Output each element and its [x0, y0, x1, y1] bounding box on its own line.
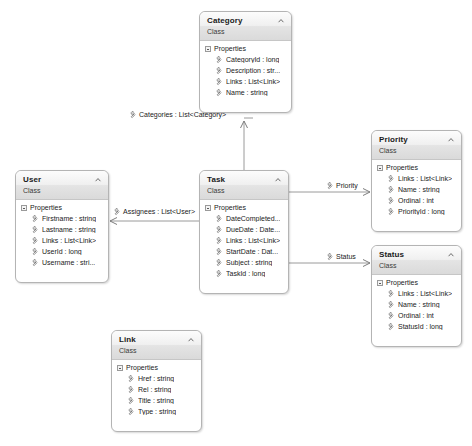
property-wrench-icon [112, 208, 120, 216]
class-header-link[interactable]: LinkClass [112, 331, 201, 360]
property-wrench-icon [30, 248, 38, 256]
compartment-label: Properties [30, 204, 62, 211]
class-name-label: Category [207, 16, 285, 26]
properties-compartment-header[interactable]: Properties [112, 363, 201, 373]
property-row[interactable]: Ordinal : int [372, 195, 461, 206]
class-body-user: PropertiesFirstname : stringLastname : s… [16, 200, 108, 272]
property-row[interactable]: Username : stri... [16, 257, 108, 268]
chevron-up-icon[interactable] [277, 17, 285, 25]
class-stereotype-label: Class [23, 186, 102, 195]
property-label: Lastname : string [42, 226, 96, 233]
class-header-priority[interactable]: PriorityClass [372, 131, 461, 160]
property-wrench-icon [214, 248, 222, 256]
compartment-label: Properties [214, 45, 246, 52]
class-header-status[interactable]: StatusClass [372, 246, 461, 275]
property-row[interactable]: Href : string [112, 373, 201, 384]
properties-compartment-header[interactable]: Properties [200, 203, 288, 213]
properties-compartment-header[interactable]: Properties [200, 44, 291, 54]
property-row[interactable]: TaskId : long [200, 268, 288, 279]
property-label: Links : List<Link> [226, 237, 280, 244]
class-shape-link[interactable]: LinkClassPropertiesHref : stringRel : st… [111, 330, 202, 432]
property-row[interactable]: Lastname : string [16, 224, 108, 235]
property-wrench-icon [386, 301, 394, 309]
property-row[interactable]: Description : str... [200, 65, 291, 76]
property-wrench-icon [386, 323, 394, 331]
property-row[interactable]: Links : List<Link> [200, 76, 291, 87]
property-label: Ordinal : int [398, 312, 434, 319]
property-row[interactable]: Type : string [112, 406, 201, 417]
property-row[interactable]: Name : string [372, 184, 461, 195]
association-label-text: Status [336, 252, 356, 261]
property-label: Href : string [138, 375, 174, 382]
association-label-assignees[interactable]: Assignees : List<User> [110, 207, 197, 216]
property-label: Rel : string [138, 386, 171, 393]
properties-compartment-header[interactable]: Properties [372, 163, 461, 173]
properties-compartment-header[interactable]: Properties [16, 203, 108, 213]
properties-compartment-header[interactable]: Properties [372, 278, 461, 288]
property-row[interactable]: Title : string [112, 395, 201, 406]
property-row[interactable]: Rel : string [112, 384, 201, 395]
class-diagram-canvas[interactable]: Categories : List<Category> Assignees : … [0, 0, 472, 446]
property-wrench-icon [126, 397, 134, 405]
property-label: Ordinal : int [398, 197, 434, 204]
property-wrench-icon [386, 186, 394, 194]
collapse-expander-icon[interactable] [377, 280, 383, 286]
property-row[interactable]: Subject : string [200, 257, 288, 268]
property-row[interactable]: Ordinal : int [372, 310, 461, 321]
collapse-expander-icon[interactable] [205, 46, 211, 52]
class-shape-user[interactable]: UserClassPropertiesFirstname : stringLas… [15, 170, 109, 283]
class-body-task: PropertiesDateCompleted...DueDate : Date… [200, 200, 288, 283]
property-wrench-icon [126, 386, 134, 394]
property-label: Links : List<Link> [398, 175, 452, 182]
property-row[interactable]: Links : List<Link> [372, 173, 461, 184]
chevron-up-icon[interactable] [94, 176, 102, 184]
property-row[interactable]: Name : string [200, 87, 291, 98]
property-wrench-icon [386, 175, 394, 183]
property-row[interactable]: UserId : long [16, 246, 108, 257]
property-wrench-icon [214, 270, 222, 278]
class-header-category[interactable]: CategoryClass [200, 12, 291, 41]
property-row[interactable]: Firstname : string [16, 213, 108, 224]
association-label-status[interactable]: Status [323, 252, 358, 261]
class-shape-category[interactable]: CategoryClassPropertiesCategoryId : long… [199, 11, 292, 113]
property-row[interactable]: Name : string [372, 299, 461, 310]
property-row[interactable]: Links : List<Link> [16, 235, 108, 246]
property-label: Firstname : string [42, 215, 96, 222]
property-wrench-icon [30, 215, 38, 223]
chevron-up-icon[interactable] [274, 176, 282, 184]
property-row[interactable]: Links : List<Link> [372, 288, 461, 299]
collapse-expander-icon[interactable] [117, 365, 123, 371]
property-row[interactable]: DueDate : Date... [200, 224, 288, 235]
class-header-user[interactable]: UserClass [16, 171, 108, 200]
property-label: Links : List<Link> [226, 78, 280, 85]
chevron-up-icon[interactable] [187, 336, 195, 344]
class-name-label: Link [119, 335, 195, 345]
property-wrench-icon [30, 237, 38, 245]
collapse-expander-icon[interactable] [377, 165, 383, 171]
association-label-priority[interactable]: Priority [323, 181, 360, 190]
class-body-link: PropertiesHref : stringRel : stringTitle… [112, 360, 201, 421]
property-row[interactable]: DateCompleted... [200, 213, 288, 224]
property-row[interactable]: CategoryId : long [200, 54, 291, 65]
property-wrench-icon [30, 259, 38, 267]
collapse-expander-icon[interactable] [21, 205, 27, 211]
class-header-task[interactable]: TaskClass [200, 171, 288, 200]
chevron-up-icon[interactable] [447, 251, 455, 259]
class-shape-status[interactable]: StatusClassPropertiesLinks : List<Link>N… [371, 245, 462, 347]
property-wrench-icon [30, 226, 38, 234]
collapse-expander-icon[interactable] [205, 205, 211, 211]
compartment-label: Properties [126, 364, 158, 371]
property-row[interactable]: Links : List<Link> [200, 235, 288, 246]
class-name-label: Priority [379, 135, 455, 145]
property-wrench-icon [386, 197, 394, 205]
class-stereotype-label: Class [119, 346, 195, 355]
property-row[interactable]: PriorityId : long [372, 206, 461, 217]
class-stereotype-label: Class [207, 186, 282, 195]
property-wrench-icon [214, 259, 222, 267]
class-shape-priority[interactable]: PriorityClassPropertiesLinks : List<Link… [371, 130, 462, 232]
property-row[interactable]: StatusId : long [372, 321, 461, 332]
property-row[interactable]: StartDate : Dat... [200, 246, 288, 257]
class-shape-task[interactable]: TaskClassPropertiesDateCompleted...DueDa… [199, 170, 289, 294]
property-wrench-icon [128, 111, 136, 119]
chevron-up-icon[interactable] [447, 136, 455, 144]
